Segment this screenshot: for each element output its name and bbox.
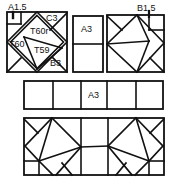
top-right-block: B1.5 xyxy=(107,3,164,72)
bottom-strip xyxy=(24,118,164,175)
label-a15: A1.5 xyxy=(8,2,27,12)
center-a3-block: A3 xyxy=(73,16,103,72)
bottom-center-horizontal xyxy=(81,146,108,147)
label-t60r: T60r xyxy=(30,26,49,36)
top-left-block: A1.5 C3 T60r T60 T59 B3 xyxy=(7,2,67,72)
label-c3: C3 xyxy=(46,13,58,23)
quilt-diagram: A1.5 C3 T60r T60 T59 B3 A3 B1.5 A3 xyxy=(0,0,172,177)
label-t59: T59 xyxy=(34,45,50,55)
label-t60: T60 xyxy=(9,39,25,49)
label-center-a3: A3 xyxy=(81,24,92,34)
middle-strip: A3 xyxy=(24,81,163,109)
label-b15: B1.5 xyxy=(137,3,156,13)
label-b3: B3 xyxy=(50,58,61,68)
label-strip-a3: A3 xyxy=(88,90,99,100)
